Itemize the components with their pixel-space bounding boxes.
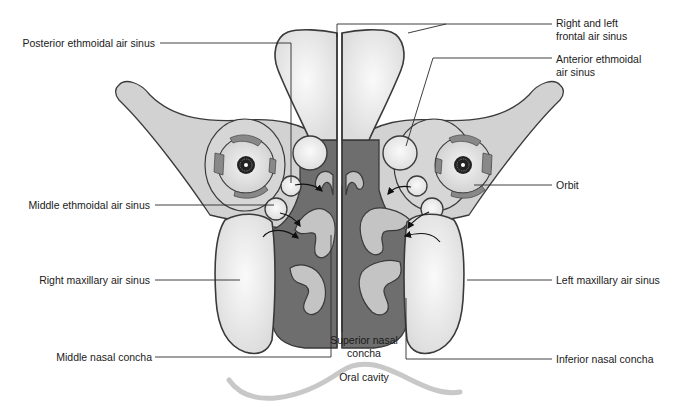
sinus-diagram: Posterior ethmoidal air sinus Middle eth… bbox=[0, 0, 679, 407]
label-inferior-nasal-concha: Inferior nasal concha bbox=[556, 353, 653, 366]
label-anterior-ethmoidal-line1: Anterior ethmoidal bbox=[556, 53, 641, 66]
eyeball-icon-left bbox=[454, 156, 472, 174]
label-right-maxillary: Right maxillary air sinus bbox=[2, 274, 150, 287]
left-posterior-ethmoidal-sinus bbox=[407, 176, 427, 196]
label-orbit: Orbit bbox=[556, 179, 579, 192]
left-anterior-ethmoidal-sinus bbox=[383, 136, 417, 170]
right-anterior-ethmoidal-sinus bbox=[293, 136, 327, 170]
label-oral-cavity: Oral cavity bbox=[324, 371, 404, 384]
label-posterior-ethmoidal: Posterior ethmoidal air sinus bbox=[2, 37, 155, 50]
label-anterior-ethmoidal-line2: air sinus bbox=[556, 66, 595, 79]
label-left-maxillary: Left maxillary air sinus bbox=[556, 274, 660, 287]
eyeball-icon-right bbox=[237, 156, 255, 174]
label-superior-nasal-line1: Superior nasal bbox=[324, 334, 404, 347]
label-middle-nasal-concha: Middle nasal concha bbox=[2, 351, 152, 364]
right-maxillary-sinus bbox=[215, 214, 275, 353]
label-frontal-line1: Right and left bbox=[556, 17, 618, 30]
right-orbit bbox=[205, 119, 285, 211]
right-middle-ethmoidal-sinus bbox=[265, 198, 287, 220]
label-middle-ethmoidal: Middle ethmoidal air sinus bbox=[2, 199, 150, 212]
label-frontal-line2: frontal air sinus bbox=[556, 30, 627, 43]
left-maxillary-sinus bbox=[404, 214, 464, 353]
label-superior-nasal-line2: concha bbox=[324, 347, 404, 360]
leader-frontal bbox=[408, 24, 552, 33]
